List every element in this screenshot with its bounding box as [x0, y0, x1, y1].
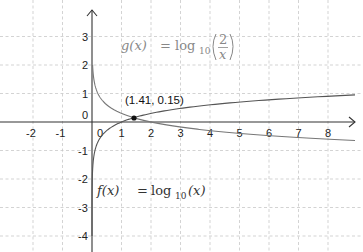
intersection-point[interactable]: [131, 115, 136, 120]
x-tick-label: 2: [148, 127, 154, 139]
graph-canvas: -2-10123456783210-1-2-3-4 (1.41, 0.15) g…: [0, 0, 363, 252]
g-log-base: 10: [199, 46, 211, 56]
x-tick-label: 1: [119, 127, 125, 139]
y-tick-label: -2: [78, 173, 88, 185]
g-numerator: 2: [219, 32, 227, 47]
g-left-paren-icon: [213, 34, 216, 60]
y-tick-label: -4: [78, 230, 88, 242]
g-denominator: x: [219, 47, 227, 62]
f-log-base: 10: [175, 191, 187, 201]
x-tick-label: 4: [207, 127, 213, 139]
y-tick-label: 1: [82, 88, 88, 100]
g-log: log: [175, 38, 195, 53]
f-arg: (x): [188, 183, 205, 198]
g-right-paren-icon: [230, 34, 233, 60]
function-plot: -2-10123456783210-1-2-3-4 (1.41, 0.15) g…: [0, 0, 363, 252]
f-name: f(x): [96, 183, 119, 198]
y-tick-label: 3: [82, 31, 88, 43]
y-tick-label: 2: [82, 59, 88, 71]
curve-f: [92, 95, 355, 236]
x-tick-label: 8: [325, 127, 331, 139]
y-tick-label: -1: [78, 145, 88, 157]
y-tick-label: 0: [82, 109, 88, 121]
g-name: g(x): [121, 38, 147, 53]
x-tick-label: -1: [56, 127, 66, 139]
f-equals: =: [137, 183, 148, 198]
x-tick-label: -2: [26, 127, 36, 139]
intersection-label: (1.41, 0.15): [125, 94, 184, 106]
g-equals: =: [160, 38, 171, 53]
x-tick-label: 6: [266, 127, 272, 139]
y-tick-label: -3: [78, 202, 88, 214]
f-log: log: [151, 183, 171, 198]
x-tick-label: 3: [178, 127, 184, 139]
